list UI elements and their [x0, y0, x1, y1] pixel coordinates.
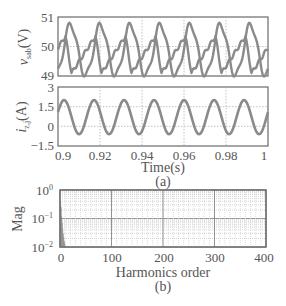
spectrum-y-ticks: 100 10−1 10−2 [31, 183, 53, 255]
spectrum-x-ticks: 0 100 200 300 400 [58, 250, 274, 265]
svg-text:0.92: 0.92 [89, 148, 112, 163]
y-tick-neg-1-5: −1.5 [30, 138, 54, 153]
svg-text:10−1: 10−1 [31, 211, 53, 226]
caption-a: (a) [155, 174, 171, 190]
svg-text:0.9: 0.9 [55, 148, 71, 163]
svg-text:0: 0 [58, 250, 65, 265]
caption-b: (b) [155, 279, 172, 295]
svg-text:200: 200 [154, 250, 174, 265]
spectrum-grid [60, 190, 266, 247]
spectrum-y-label: Mag [10, 206, 25, 232]
svg-text:1: 1 [261, 148, 268, 163]
spectrum-plot: 100 10−1 10−2 Mag 0 100 200 300 400 Harm… [10, 183, 274, 295]
svg-text:100: 100 [102, 250, 122, 265]
y-tick-51: 51 [41, 10, 54, 25]
svg-text:100: 100 [36, 183, 53, 198]
svg-text:vsab(V): vsab(V) [16, 29, 33, 66]
spectrum-x-label: Harmonics order [116, 265, 211, 280]
y-tick-3: 3 [48, 80, 55, 95]
svg-text:0.98: 0.98 [215, 148, 238, 163]
svg-text:300: 300 [205, 250, 225, 265]
y-tick-50: 50 [41, 39, 54, 54]
voltage-plot: 51 50 49 vsab(V) [16, 10, 268, 83]
y-tick-1-5: 1.5 [38, 99, 54, 114]
svg-text:10−2: 10−2 [31, 240, 53, 255]
figure: 51 50 49 vsab(V) 3 1.5 0 −1.5 iz,j(A) [0, 0, 286, 306]
svg-text:Mag: Mag [10, 206, 25, 232]
current-y-label: iz,j(A) [14, 101, 31, 132]
svg-text:400: 400 [254, 250, 274, 265]
svg-text:iz,j(A): iz,j(A) [14, 101, 31, 132]
y-tick-0: 0 [48, 119, 55, 134]
current-plot: 3 1.5 0 −1.5 iz,j(A) 0.9 0.92 0.94 0.96 … [14, 80, 268, 190]
voltage-y-label: vsab(V) [16, 29, 33, 66]
